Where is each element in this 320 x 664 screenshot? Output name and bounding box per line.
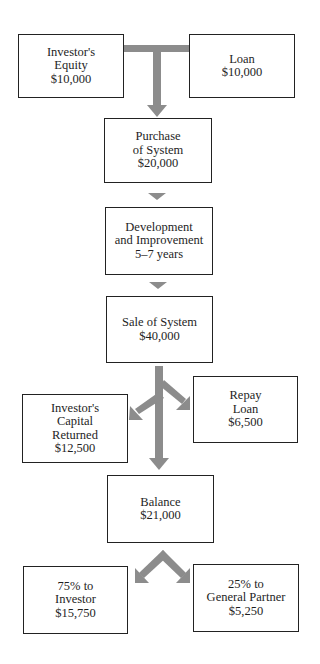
branch-right	[160, 380, 186, 404]
node-text: $12,500	[55, 442, 96, 456]
node-text: General Partner	[207, 591, 286, 605]
investor-share-box: 75% to Investor $15,750	[23, 566, 128, 634]
node-text: Returned	[52, 429, 98, 443]
arrowhead-to-sale	[149, 282, 167, 289]
node-text: Sale of System	[122, 316, 197, 330]
node-text: $10,000	[222, 66, 263, 80]
node-text: $10,000	[51, 73, 92, 87]
node-text: Loan	[229, 53, 255, 67]
node-text: Balance	[140, 496, 180, 510]
node-text: 5–7 years	[135, 248, 183, 262]
node-text: $40,000	[139, 330, 180, 344]
node-text: 75% to	[58, 580, 94, 594]
node-text: and Improvement	[115, 234, 204, 248]
node-text: Loan	[233, 403, 259, 417]
node-text: $21,000	[140, 509, 181, 523]
node-text: Equity	[54, 59, 87, 73]
node-text: Investor's	[47, 46, 95, 60]
balance-box: Balance $21,000	[107, 475, 214, 543]
merge-stem	[153, 45, 161, 107]
node-text: Development	[125, 221, 192, 235]
split-stem	[155, 366, 163, 460]
node-text: Investor's	[51, 402, 99, 416]
arrowhead-to-purchase	[147, 105, 167, 117]
node-text: $20,000	[138, 157, 179, 171]
node-text: $5,250	[229, 605, 263, 619]
loan-box: Loan $10,000	[189, 34, 295, 98]
development-box: Development and Improvement 5–7 years	[105, 207, 213, 275]
node-text: of System	[133, 144, 183, 158]
node-text: Purchase	[135, 130, 180, 144]
repay-loan-box: Repay Loan $6,500	[193, 376, 298, 443]
sale-box: Sale of System $40,000	[106, 296, 213, 363]
node-text: $6,500	[228, 416, 262, 430]
node-text: Investor	[55, 593, 96, 607]
investor-equity-box: Investor's Equity $10,000	[18, 34, 124, 98]
node-text: Capital	[57, 415, 93, 429]
node-text: Repay	[230, 389, 262, 403]
purchase-box: Purchase of System $20,000	[104, 118, 212, 183]
node-text: 25% to	[228, 578, 264, 592]
node-text: $15,750	[55, 607, 96, 621]
arrowhead-to-development	[148, 193, 166, 200]
arrowhead-to-balance	[149, 458, 169, 470]
capital-returned-box: Investor's Capital Returned $12,500	[22, 394, 128, 463]
partner-share-box: 25% to General Partner $5,250	[193, 564, 299, 632]
v-right	[158, 550, 186, 578]
